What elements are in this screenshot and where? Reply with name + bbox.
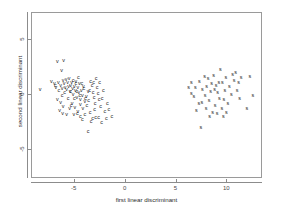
x-tick-mark	[125, 179, 126, 182]
data-point-s: s	[205, 106, 208, 111]
x-tick-mark	[176, 179, 177, 182]
data-point-v: v	[62, 104, 65, 109]
data-point-c: c	[90, 119, 93, 124]
data-point-s: s	[224, 88, 227, 93]
data-point-s: s	[234, 71, 237, 76]
data-point-c: c	[93, 107, 96, 112]
y-tick-mark	[28, 149, 31, 150]
x-tick-label: 5	[174, 185, 177, 191]
data-point-s: s	[225, 75, 228, 80]
data-point-s: s	[219, 67, 222, 72]
data-point-c: c	[88, 88, 91, 93]
x-tick-mark	[226, 179, 227, 182]
data-point-c: c	[76, 112, 79, 117]
data-point-c: c	[107, 107, 110, 112]
data-point-c: c	[67, 96, 70, 101]
data-point-c: c	[78, 93, 81, 98]
data-point-s: s	[203, 75, 206, 80]
x-tick-label: 10	[223, 185, 230, 191]
data-point-c: c	[69, 90, 72, 95]
data-point-s: s	[208, 114, 211, 119]
data-point-c: c	[102, 88, 105, 93]
data-point-c: c	[77, 75, 80, 80]
data-point-s: s	[214, 103, 217, 108]
data-point-s: s	[198, 80, 201, 85]
data-point-c: c	[73, 97, 76, 102]
y-axis-line	[27, 12, 28, 178]
data-point-c: c	[99, 104, 102, 109]
data-point-v: v	[60, 68, 63, 73]
data-point-c: c	[103, 109, 106, 114]
data-point-c: c	[94, 115, 97, 120]
data-point-s: s	[190, 80, 193, 85]
data-point-s: s	[187, 85, 190, 90]
data-point-c: c	[72, 78, 75, 83]
y-tick-mark	[28, 39, 31, 40]
data-point-v: v	[56, 60, 59, 65]
data-point-v: v	[72, 113, 75, 118]
chart-screenshot: vvvvvvvvvvvvvvvvvvvvvvvvvvvvvvvvvvvvvvvv…	[0, 0, 284, 212]
data-point-s: s	[237, 81, 240, 86]
data-point-c: c	[105, 116, 108, 121]
data-point-s: s	[221, 80, 224, 85]
data-point-s: s	[231, 72, 234, 77]
y-axis-title: second linear discriminant	[16, 32, 23, 152]
data-point-c: c	[100, 120, 103, 125]
x-tick-mark	[74, 179, 75, 182]
data-point-c: c	[61, 93, 64, 98]
data-point-s: s	[212, 73, 215, 78]
data-point-s: s	[222, 114, 225, 119]
data-point-s: s	[220, 107, 223, 112]
data-point-s: s	[208, 98, 211, 103]
data-point-s: s	[233, 78, 236, 83]
data-point-s: s	[195, 108, 198, 113]
x-axis-line	[31, 182, 262, 183]
data-point-s: s	[227, 102, 230, 107]
data-point-s: s	[216, 90, 219, 95]
data-point-c: c	[111, 114, 114, 119]
y-tick-mark	[28, 94, 31, 95]
data-point-s: s	[230, 92, 233, 97]
data-point-s: s	[228, 84, 231, 89]
data-point-s: s	[211, 111, 214, 116]
data-point-c: c	[98, 81, 101, 86]
data-point-s: s	[200, 125, 203, 130]
data-point-s: s	[192, 94, 195, 99]
x-tick-label: 0	[123, 185, 126, 191]
data-point-s: s	[204, 93, 207, 98]
data-point-s: s	[201, 101, 204, 106]
scatter-data-layer: vvvvvvvvvvvvvvvvvvvvvvvvvvvvvvvvvvvvvvvv…	[31, 12, 262, 178]
data-point-s: s	[248, 74, 251, 79]
x-tick-label: -5	[71, 185, 76, 191]
data-point-s: s	[225, 111, 228, 116]
data-point-s: s	[222, 97, 225, 102]
data-point-c: c	[86, 103, 89, 108]
data-point-s: s	[236, 88, 239, 93]
data-point-c: c	[81, 117, 84, 122]
data-point-c: c	[87, 129, 90, 134]
data-point-s: s	[198, 102, 201, 107]
data-point-s: s	[218, 97, 221, 102]
x-axis-title: first linear discriminant	[31, 196, 262, 203]
data-point-v: v	[62, 58, 65, 63]
data-point-v: v	[65, 112, 68, 117]
data-point-c: c	[87, 98, 90, 103]
data-point-c: c	[54, 83, 57, 88]
data-point-s: s	[207, 76, 210, 81]
data-point-c: c	[83, 87, 86, 92]
data-point-s: s	[251, 93, 254, 98]
data-point-s: s	[238, 97, 241, 102]
data-point-s: s	[213, 87, 216, 92]
data-point-v: v	[61, 112, 64, 117]
data-point-s: s	[209, 90, 212, 95]
data-point-s: s	[217, 81, 220, 86]
data-point-c: c	[101, 96, 104, 101]
data-point-c: c	[92, 81, 95, 86]
data-point-s: s	[194, 85, 197, 90]
data-point-v: v	[39, 87, 42, 92]
data-point-s: s	[216, 112, 219, 117]
data-point-s: s	[245, 106, 248, 111]
data-point-s: s	[205, 84, 208, 89]
data-point-c: c	[70, 103, 73, 108]
